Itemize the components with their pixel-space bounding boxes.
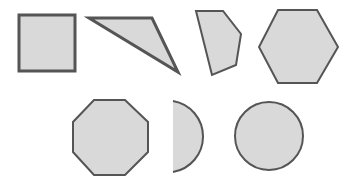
octagon-shape (73, 100, 148, 175)
circle-shape (235, 102, 303, 170)
square-shape (19, 15, 75, 71)
shapes-diagram (0, 0, 359, 180)
